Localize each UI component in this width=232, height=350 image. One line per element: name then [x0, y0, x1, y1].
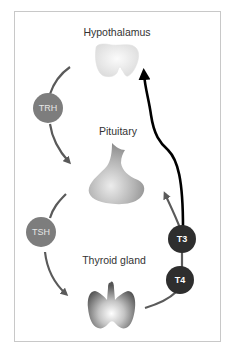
thyroid-shape: [88, 282, 135, 329]
t3-label: T3: [177, 234, 188, 244]
hypothalamus-label: Hypothalamus: [83, 26, 150, 38]
pituitary-label: Pituitary: [99, 125, 137, 137]
trh-node: TRH: [33, 93, 63, 123]
tsh-arrow: [50, 194, 66, 218]
pituitary-shape: [89, 143, 145, 204]
t4-label: T4: [175, 275, 186, 285]
tsh-arrow-lower: [45, 252, 66, 294]
diagram-canvas: [0, 0, 232, 350]
thyroid-to-t4-line: [145, 292, 176, 308]
trh-arrow: [50, 67, 70, 94]
tsh-label: TSH: [32, 227, 50, 237]
t3-to-pituitary-arrow: [165, 194, 180, 228]
t3-to-hypothalamus-arrow: [144, 74, 183, 228]
trh-arrow-lower: [50, 124, 69, 162]
tsh-node: TSH: [26, 217, 56, 247]
trh-label: TRH: [39, 103, 58, 113]
t4-node: T4: [166, 266, 194, 294]
thyroid-label: Thyroid gland: [82, 254, 146, 266]
hypothalamus-shape: [95, 44, 138, 77]
t3-node: T3: [168, 225, 196, 253]
